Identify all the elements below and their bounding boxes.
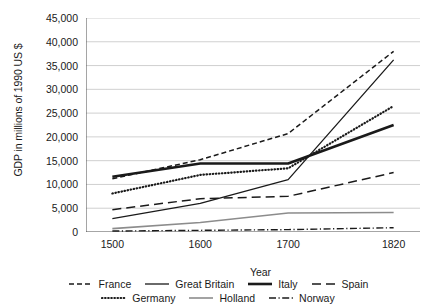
legend-swatch-spain-icon	[311, 279, 337, 289]
y-tick-10000: 10,000	[22, 178, 78, 190]
legend-item-france[interactable]: France	[68, 278, 132, 290]
legend-swatch-italy-icon	[247, 279, 273, 289]
y-tick-45000: 45,000	[22, 12, 78, 24]
plot-area	[86, 18, 420, 232]
legend-label: France	[99, 278, 132, 290]
legend-label: Norway	[299, 292, 335, 304]
legend-swatch-france-icon	[68, 279, 94, 289]
legend-label: Germany	[132, 292, 175, 304]
series-line-norway	[112, 228, 393, 231]
legend-swatch-great-britain-icon	[144, 279, 170, 289]
legend-item-germany[interactable]: Germany	[101, 292, 175, 304]
series-line-holland	[112, 213, 393, 229]
legend-item-italy[interactable]: Italy	[247, 278, 297, 290]
x-tick-1700: 1700	[258, 238, 318, 250]
legend-item-spain[interactable]: Spain	[311, 278, 369, 290]
legend-item-norway[interactable]: Norway	[268, 292, 335, 304]
series-line-germany	[112, 106, 393, 194]
series-line-spain	[112, 173, 393, 210]
legend-swatch-norway-icon	[268, 293, 294, 303]
y-tick-30000: 30,000	[22, 83, 78, 95]
x-tick-1500: 1500	[82, 238, 142, 250]
legend-row-2: GermanyHollandNorway	[0, 291, 436, 305]
x-tick-1820: 1820	[364, 238, 424, 250]
y-tick-25000: 25,000	[22, 107, 78, 119]
y-tick-5000: 5,000	[22, 202, 78, 214]
legend-item-great-britain[interactable]: Great Britain	[144, 278, 234, 290]
chart-legend: FranceGreat BritainItalySpain GermanyHol…	[0, 277, 436, 305]
x-tick-1600: 1600	[170, 238, 230, 250]
legend-label: Spain	[342, 278, 369, 290]
legend-row-1: FranceGreat BritainItalySpain	[0, 277, 436, 291]
y-tick-0: 0	[22, 226, 78, 238]
y-tick-15000: 15,000	[22, 155, 78, 167]
legend-label: Holland	[219, 292, 255, 304]
series-line-france	[112, 51, 393, 178]
plot-svg	[86, 18, 420, 232]
legend-swatch-holland-icon	[188, 293, 214, 303]
y-tick-40000: 40,000	[22, 36, 78, 48]
legend-item-holland[interactable]: Holland	[188, 292, 255, 304]
legend-label: Great Britain	[175, 278, 234, 290]
y-tick-20000: 20,000	[22, 131, 78, 143]
legend-label: Italy	[278, 278, 297, 290]
y-tick-35000: 35,000	[22, 60, 78, 72]
legend-swatch-germany-icon	[101, 293, 127, 303]
